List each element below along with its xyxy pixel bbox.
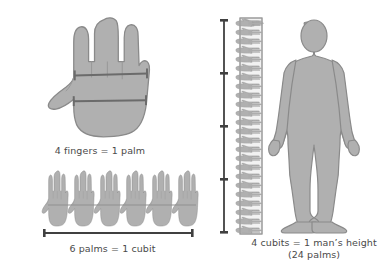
height-caption-line1: 4 cubits = 1 man’s height <box>251 237 377 248</box>
palm-figure-group <box>48 18 149 137</box>
height-caption: 4 cubits = 1 man’s height (24 palms) <box>239 237 389 261</box>
height-caption-line2: (24 palms) <box>239 249 389 261</box>
six-hands-row-group <box>42 171 198 226</box>
cubit-caption: 6 palms = 1 cubit <box>0 243 225 255</box>
measurement-units-diagram: 4 fingers = 1 palm 6 palms = 1 cubit 4 c… <box>0 0 389 278</box>
cubit-scale-bar <box>43 229 194 237</box>
height-scale-bar <box>220 19 228 234</box>
palm-caption: 4 fingers = 1 palm <box>0 145 200 157</box>
vertical-hand-stack <box>236 18 264 234</box>
human-silhouette <box>269 20 360 233</box>
